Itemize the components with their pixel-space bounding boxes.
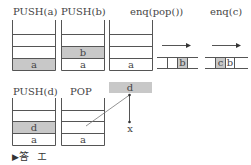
- queue-after-enq-pop: [157, 46, 198, 69]
- cell-a: a: [31, 59, 37, 70]
- popped-d: d: [127, 82, 134, 93]
- answer-value: エ: [37, 151, 47, 162]
- variable-x: x: [127, 123, 133, 134]
- cell-a: a: [31, 134, 37, 145]
- queue-cell-c: c: [218, 57, 224, 68]
- cell-a: a: [80, 134, 86, 145]
- queue-cell-b: b: [179, 57, 185, 68]
- cell-b: b: [80, 47, 86, 58]
- answer-label: 答: [19, 151, 29, 162]
- cell-d: d: [31, 122, 38, 133]
- cell-a: a: [128, 59, 134, 70]
- answer-line: ▶答エ: [12, 151, 47, 163]
- triangle-marker-icon: ▶: [12, 152, 19, 162]
- popped-value: [86, 82, 152, 126]
- cell-a: a: [80, 59, 86, 70]
- stack-queue-diagram: a b a a b c b: [0, 0, 251, 165]
- queue-cell-b: b: [227, 57, 233, 68]
